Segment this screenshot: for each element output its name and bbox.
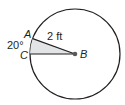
center-point: [73, 52, 78, 57]
label-point-a: A: [23, 28, 31, 40]
label-radius: 2 ft: [47, 30, 62, 42]
circle-sector-diagram: A 20° C 2 ft B: [0, 0, 125, 105]
label-center-b: B: [80, 48, 87, 60]
label-point-c: C: [20, 49, 28, 61]
